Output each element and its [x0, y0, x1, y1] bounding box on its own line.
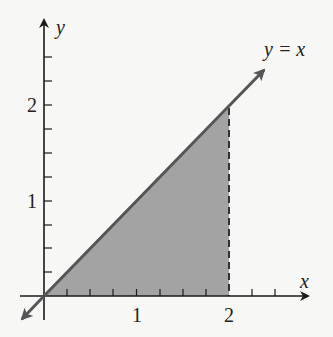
x-tick-label-2: 2 [224, 304, 234, 326]
line-y-equals-x-tail [22, 296, 44, 319]
x-tick-label-1: 1 [132, 304, 142, 326]
x-axis-label: x [299, 270, 309, 292]
y-tick-label-1: 1 [27, 190, 37, 212]
y-axis-label: y [54, 16, 65, 39]
line-label: y = x [262, 38, 305, 61]
y-ticks [44, 57, 52, 272]
y-tick-label-2: 2 [27, 94, 37, 116]
graph: 1 2 1 2 x y y = x [0, 0, 333, 337]
